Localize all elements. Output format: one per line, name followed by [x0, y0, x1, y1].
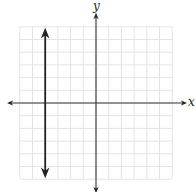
x-axis-label: x	[188, 95, 195, 109]
coordinate-plane: x y	[0, 0, 196, 192]
y-axis-label: y	[92, 0, 100, 13]
